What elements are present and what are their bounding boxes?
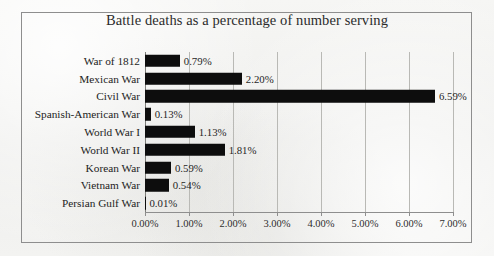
bar-value-label: 0.54% [173,179,201,191]
bar-row: World War II1.81% [145,141,453,159]
tick-mark [233,212,234,216]
category-label: Mexican War [79,73,140,85]
bar [145,161,171,174]
bar [145,90,435,103]
tick-mark [277,212,278,216]
bar-value-label: 1.13% [199,126,227,138]
gridline-7.00% [453,52,454,212]
bar-value-label: 0.13% [155,108,183,120]
bar-row: War of 18120.79% [145,52,453,70]
category-label: World War II [81,144,140,156]
bar [145,108,151,121]
x-axis-tick-label: 2.00% [219,218,246,229]
bar-row: Vietnam War0.54% [145,176,453,194]
x-axis-tick-label: 7.00% [439,218,466,229]
bar-value-label: 2.20% [246,73,274,85]
category-label: Persian Gulf War [62,197,140,209]
tick-mark [409,212,410,216]
bar-value-label: 1.81% [229,144,257,156]
bar-row: Korean War0.59% [145,159,453,177]
bar-value-label: 0.59% [175,162,203,174]
bar-row: Mexican War2.20% [145,70,453,88]
category-label: Civil War [96,90,140,102]
chart-title: Battle deaths as a percentage of number … [0,12,494,29]
plot-area: War of 18120.79%Mexican War2.20%Civil Wa… [145,52,453,212]
x-axis-tick-label: 4.00% [307,218,334,229]
category-label: Korean War [86,162,140,174]
tick-mark [453,212,454,216]
x-axis-tick-label: 1.00% [175,218,202,229]
tick-mark [145,212,146,216]
x-axis-tick-label: 6.00% [395,218,422,229]
category-label: War of 1812 [84,55,140,67]
x-axis-tick-label: 3.00% [263,218,290,229]
bar [145,126,195,139]
category-label: Vietnam War [81,179,140,191]
bar [145,55,180,68]
category-label: World War I [84,126,140,138]
bar-value-label: 0.01% [149,197,177,209]
tick-mark [321,212,322,216]
bar [145,144,225,157]
bar-row: World War I1.13% [145,123,453,141]
x-axis-tick-label: 5.00% [351,218,378,229]
x-axis-tick-label: 0.00% [131,218,158,229]
bar-value-label: 6.59% [439,90,467,102]
category-label: Spanish-American War [35,108,140,120]
bar-row: Spanish-American War0.13% [145,105,453,123]
bar-value-label: 0.79% [184,55,212,67]
tick-mark [365,212,366,216]
x-axis-line [145,212,454,213]
bar [145,72,242,85]
bar [145,179,169,192]
tick-mark [189,212,190,216]
bar-row: Civil War6.59% [145,88,453,106]
bar-row: Persian Gulf War0.01% [145,194,453,212]
